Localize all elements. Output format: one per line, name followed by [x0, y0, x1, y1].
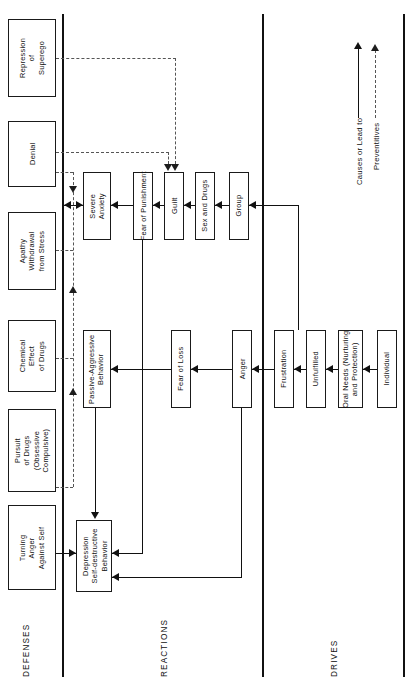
legend-dashed-arrowhead [371, 44, 379, 51]
legend-solid-line [358, 48, 359, 118]
legend-dashed-label: Preventitives [372, 123, 381, 170]
diagram-canvas: DEFENSES REACTIONS DRIVES Repression of … [0, 0, 413, 691]
legend-solid-arrowhead [354, 42, 362, 49]
legend-dashed-line [375, 50, 376, 118]
legend: Causes or Lead to Preventitives [0, 0, 413, 691]
legend-solid-label: Causes or Lead to [355, 118, 364, 185]
